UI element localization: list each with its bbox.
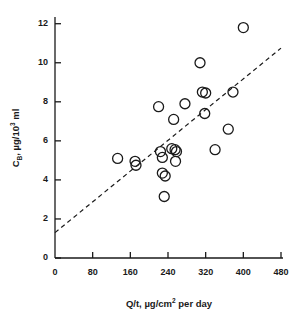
data-point-marker <box>228 87 238 97</box>
data-point-marker <box>195 58 205 68</box>
x-tick-label: 0 <box>35 268 75 277</box>
data-point-marker <box>210 145 220 155</box>
trendline-dashed <box>55 48 281 233</box>
axes-group <box>55 17 283 258</box>
x-tick-label: 400 <box>223 268 263 277</box>
y-tick-label: 6 <box>0 136 48 145</box>
data-point-marker <box>238 23 248 33</box>
data-point-marker <box>171 156 181 166</box>
y-tick-label: 10 <box>0 58 48 67</box>
data-point-marker <box>180 99 190 109</box>
y-tick-label: 2 <box>0 214 48 223</box>
data-point-marker <box>154 102 164 112</box>
x-tick-label: 320 <box>186 268 226 277</box>
x-tick-label: 80 <box>73 268 113 277</box>
data-point-marker <box>223 124 233 134</box>
y-tick-label: 12 <box>0 19 48 28</box>
data-point-marker <box>169 114 179 124</box>
x-axis-ticks <box>93 252 281 258</box>
trendline-group <box>55 48 281 233</box>
data-point-marker <box>157 152 167 162</box>
data-point-marker <box>157 168 167 178</box>
y-tick-label: 0 <box>0 253 48 262</box>
y-tick-label: 8 <box>0 97 48 106</box>
data-point-marker <box>113 153 123 163</box>
y-tick-label: 4 <box>0 175 48 184</box>
data-point-marker <box>160 171 170 181</box>
x-tick-label: 240 <box>148 268 188 277</box>
x-tick-label: 160 <box>110 268 150 277</box>
data-point-marker <box>159 192 169 202</box>
data-points-group <box>113 23 249 202</box>
y-axis-ticks <box>55 24 61 258</box>
data-point-marker <box>155 147 165 157</box>
x-axis-label: Q/t, µg/cm2 per day <box>126 297 213 309</box>
scatter-chart-figure: Q/t, µg/cm2 per day CB, µg/103 ml 024681… <box>0 0 302 324</box>
x-tick-label: 480 <box>261 268 301 277</box>
